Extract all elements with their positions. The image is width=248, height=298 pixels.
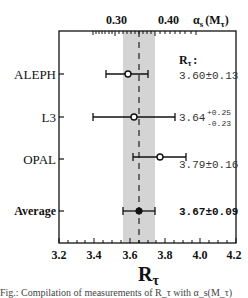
category-label-average: Average [14,204,56,218]
data-point-l3 [93,113,175,121]
value-label-l3: 3.64 [179,112,206,124]
bottom-tick-label-4.2: 4.2 [227,248,242,262]
x-axis-title: Rτ [138,263,159,288]
value-label-l3-minus: -0.23 [207,119,231,128]
figure-caption-cropped: Fig.: Compilation of measurements of R_τ… [0,287,248,298]
category-ticks [59,74,64,211]
category-label-aleph: ALEPH [14,67,56,82]
top-tick-label-040: 0.40 [158,13,179,27]
category-label-l3: L3 [42,110,56,125]
bottom-tick-label-3.8: 3.8 [158,248,173,262]
bottom-tick-label-4.0: 4.0 [193,248,208,262]
top-tick-label-030: 0.30 [106,13,127,27]
top-axis-title: αs(Mτ) [193,13,229,29]
category-label-opal: OPAL [23,152,56,167]
value-label-average: 3.67±0.09 [179,206,238,218]
value-label-opal: 3.79±0.16 [179,159,238,171]
bottom-tick-label-3.6: 3.6 [123,248,138,262]
value-column-header: Rτ: [179,53,197,68]
value-label-aleph: 3.60±0.13 [179,70,238,82]
bottom-tick-label-3.4: 3.4 [87,248,102,262]
value-label-l3-plus: +0.25 [207,108,231,117]
bottom-tick-label-3.2: 3.2 [52,248,67,262]
